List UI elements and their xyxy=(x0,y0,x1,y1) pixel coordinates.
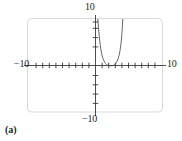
y-axis-min-label: −10 xyxy=(82,114,97,124)
y-axis-max-label: 10 xyxy=(85,2,95,12)
x-axis-min-label: −10 xyxy=(14,59,29,69)
figure-panel: −10 10 10 −10 (a) xyxy=(0,0,182,141)
x-axis-max-label: 10 xyxy=(167,59,177,69)
panel-caption: (a) xyxy=(5,124,17,135)
